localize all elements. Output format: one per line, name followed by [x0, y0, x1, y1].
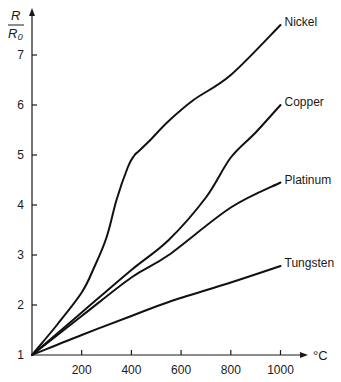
x-tick-label: 1000 [267, 363, 294, 377]
x-tick-label: 400 [121, 363, 141, 377]
y-tick-label: 2 [17, 298, 24, 312]
y-tick-label: 6 [17, 98, 24, 112]
y-tick-label: 5 [17, 148, 24, 162]
curve-copper [32, 105, 281, 355]
x-axis-arrow-icon [300, 352, 308, 358]
y-axis-arrow-icon [29, 8, 35, 16]
y-tick-label: 1 [17, 348, 24, 362]
curve-platinum [32, 183, 281, 356]
y-ticks: 1234567 [17, 48, 37, 362]
y-tick-label: 3 [17, 248, 24, 262]
x-tick-label: 200 [72, 363, 92, 377]
y-axis-label: R R₀ [8, 8, 24, 41]
series-label-platinum: Platinum [285, 173, 332, 187]
resistance-ratio-chart: 1234567 R R₀ 2004006008001000 °C NickelC… [0, 0, 341, 382]
series-label-nickel: Nickel [285, 15, 318, 29]
x-ticks: 2004006008001000 [72, 350, 294, 377]
series-label-tungsten: Tungsten [285, 256, 335, 270]
series-label-copper: Copper [285, 95, 324, 109]
series-curves [32, 25, 281, 355]
x-tick-label: 800 [221, 363, 241, 377]
x-axis: 2004006008001000 °C [32, 348, 328, 377]
x-axis-unit-label: °C [313, 348, 328, 363]
y-axis-label-denominator: R₀ [8, 26, 23, 41]
y-tick-label: 7 [17, 48, 24, 62]
y-axis-label-numerator: R [11, 8, 20, 23]
x-tick-label: 600 [171, 363, 191, 377]
y-axis: 1234567 [17, 8, 37, 362]
y-tick-label: 4 [17, 198, 24, 212]
series-labels: NickelCopperPlatinumTungsten [285, 15, 335, 270]
